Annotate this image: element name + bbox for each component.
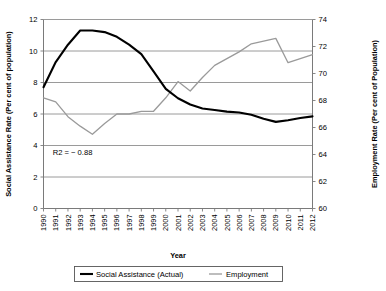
legend: Social Assistance (Actual) Employment bbox=[75, 267, 283, 282]
x-axis-tick-label: 2004 bbox=[210, 215, 219, 231]
x-axis-tick-label: 1998 bbox=[137, 215, 146, 231]
y-axis-right-tick-label: 60 bbox=[319, 204, 327, 213]
x-axis-tick-label: 1999 bbox=[149, 215, 158, 231]
x-axis-tick-label: 1991 bbox=[51, 215, 60, 231]
x-axis-tick-label: 2007 bbox=[247, 215, 256, 231]
x-axis-tick-label: 1990 bbox=[39, 215, 48, 231]
y-axis-right-tick-label: 70 bbox=[319, 69, 327, 78]
x-axis-tick-label: 2012 bbox=[308, 215, 317, 231]
x-axis-tick-label: 1993 bbox=[76, 215, 85, 231]
correlation-annotation: R2 = − 0.88 bbox=[53, 148, 93, 157]
x-axis-tick-label: 2003 bbox=[198, 215, 207, 231]
series-line-social-assistance bbox=[44, 31, 313, 122]
x-axis: 1990199119921993199419951996199719981999… bbox=[39, 209, 317, 231]
x-axis-tick-label: 2010 bbox=[284, 215, 293, 231]
y-axis-right: 6062646668707274 bbox=[313, 15, 327, 213]
x-axis-tick-label: 2008 bbox=[259, 215, 268, 231]
y-axis-left-tick-label: 0 bbox=[33, 204, 37, 213]
line-chart: 024681012 6062646668707274 1990199119921… bbox=[0, 0, 386, 291]
legend-label-social-assistance: Social Assistance (Actual) bbox=[96, 270, 184, 279]
y-axis-left-tick-label: 6 bbox=[33, 110, 37, 119]
y-axis-left-tick-label: 10 bbox=[29, 47, 37, 56]
x-axis-tick-label: 2002 bbox=[186, 215, 195, 231]
legend-label-employment: Employment bbox=[226, 270, 269, 279]
y-axis-left-tick-label: 8 bbox=[33, 78, 37, 87]
x-axis-tick-label: 1996 bbox=[112, 215, 121, 231]
y-axis-left-tick-label: 2 bbox=[33, 173, 37, 182]
x-axis-tick-label: 2006 bbox=[235, 215, 244, 231]
y-axis-right-title: Employment Rate (Per cent of Population) bbox=[370, 40, 379, 188]
x-axis-tick-label: 2009 bbox=[271, 215, 280, 231]
y-axis-right-tick-label: 68 bbox=[319, 96, 327, 105]
y-axis-right-tick-label: 72 bbox=[319, 42, 327, 51]
x-axis-tick-label: 1994 bbox=[88, 215, 97, 231]
y-axis-left-tick-label: 12 bbox=[29, 15, 37, 24]
x-axis-tick-label: 2011 bbox=[296, 215, 305, 231]
x-axis-tick-label: 1992 bbox=[64, 215, 73, 231]
x-axis-title: Year bbox=[170, 251, 186, 260]
x-axis-tick-label: 1995 bbox=[100, 215, 109, 231]
x-axis-tick-label: 2000 bbox=[161, 215, 170, 231]
chart-container: 024681012 6062646668707274 1990199119921… bbox=[0, 0, 386, 291]
y-axis-right-tick-label: 66 bbox=[319, 123, 327, 132]
y-axis-right-tick-label: 74 bbox=[319, 15, 327, 24]
y-axis-left-title: Social Assistance Rate (Per cent of popu… bbox=[4, 31, 13, 197]
y-axis-left-tick-label: 4 bbox=[33, 141, 37, 150]
y-axis-right-tick-label: 64 bbox=[319, 150, 327, 159]
y-axis-right-tick-label: 62 bbox=[319, 177, 327, 186]
y-axis-left: 024681012 bbox=[29, 15, 43, 213]
x-axis-tick-label: 2005 bbox=[223, 215, 232, 231]
x-axis-tick-label: 2001 bbox=[174, 215, 183, 231]
x-axis-tick-label: 1997 bbox=[125, 215, 134, 231]
